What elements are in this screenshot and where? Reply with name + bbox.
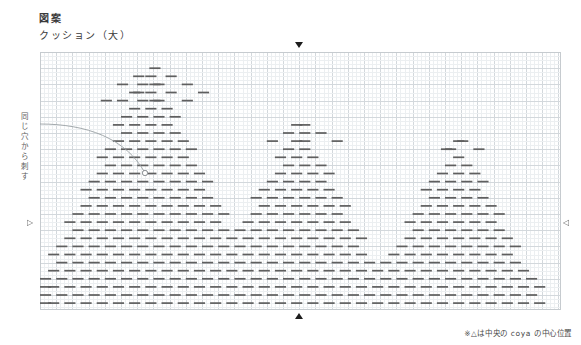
footnote-center-position: ※△は中央の coya の中心位置 <box>464 327 572 338</box>
pattern-sheet: 図案 クッション（大） 同じ穴から刺す ※△は中央の coya の中心位置 ▷ … <box>0 0 581 345</box>
side-note-same-hole: 同じ穴から刺す <box>17 112 30 182</box>
title-block: 図案 クッション（大） <box>39 11 131 43</box>
center-mark-bottom-icon <box>295 313 303 319</box>
row-mark-right-icon: ◁ <box>563 218 569 227</box>
page-title: 図案 <box>39 11 131 26</box>
row-mark-left-icon: ▷ <box>27 218 33 227</box>
center-mark-top-icon <box>295 42 303 48</box>
pattern-chart <box>40 52 561 310</box>
stitch-canvas <box>40 52 561 310</box>
page-subtitle: クッション（大） <box>39 28 131 43</box>
